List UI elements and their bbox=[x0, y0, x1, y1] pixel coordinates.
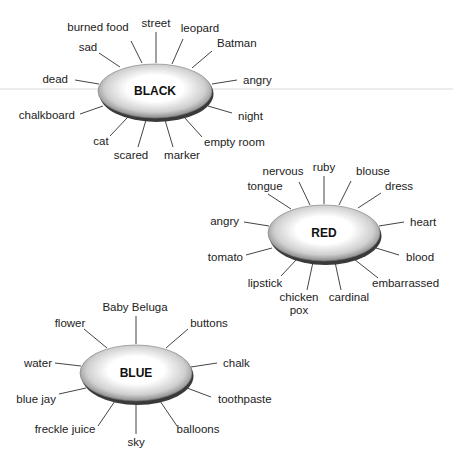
spoke-line bbox=[339, 181, 351, 205]
spoke-line bbox=[335, 262, 341, 290]
spoke-line bbox=[131, 41, 142, 63]
association-label: toothpaste bbox=[218, 393, 272, 405]
spoke-line bbox=[55, 363, 81, 366]
association-label: flower bbox=[55, 317, 86, 329]
association-label: scared bbox=[114, 149, 149, 161]
spoke-line bbox=[358, 193, 381, 208]
spoke-line bbox=[299, 182, 310, 205]
spoke-line bbox=[307, 262, 313, 290]
association-label: dead bbox=[42, 73, 68, 85]
word-web-diagram: BLACKburned foodstreetleopardsadBatmande… bbox=[0, 0, 453, 469]
spoke-line bbox=[376, 248, 399, 255]
diagram-canvas: BLACKburned foodstreetleopardsadBatmande… bbox=[0, 0, 453, 469]
association-label: water bbox=[23, 357, 52, 369]
spoke-line bbox=[184, 117, 202, 137]
association-label: dress bbox=[385, 180, 413, 192]
association-label: cat bbox=[93, 135, 109, 147]
spoke-line bbox=[166, 329, 188, 348]
association-label: angry bbox=[210, 215, 239, 227]
association-label: chicken bbox=[280, 291, 319, 303]
association-label: freckle juice bbox=[35, 423, 96, 435]
cluster-red: REDrubynervousblousetonguedressangryhear… bbox=[208, 161, 439, 316]
association-label: sky bbox=[127, 436, 145, 448]
association-label: night bbox=[238, 110, 264, 122]
spoke-line bbox=[59, 388, 86, 394]
association-label: street bbox=[142, 17, 172, 29]
spoke-line bbox=[268, 194, 291, 209]
center-label-black: BLACK bbox=[134, 84, 176, 98]
association-label: embarrassed bbox=[372, 277, 439, 289]
association-label: sad bbox=[79, 41, 98, 53]
cluster-blue: BLUEBaby Belugaflowerbuttonswaterchalkbl… bbox=[16, 301, 271, 448]
spoke-line bbox=[246, 248, 272, 255]
center-label-blue: BLUE bbox=[120, 366, 153, 380]
association-label: pox bbox=[290, 304, 309, 316]
association-label: Baby Beluga bbox=[102, 301, 168, 313]
spoke-line bbox=[99, 53, 120, 67]
spoke-line bbox=[110, 117, 128, 136]
center-label-red: RED bbox=[311, 226, 337, 240]
association-label: empty room bbox=[204, 136, 265, 148]
spoke-line bbox=[244, 222, 269, 226]
spoke-line bbox=[212, 80, 237, 84]
spoke-line bbox=[191, 363, 217, 367]
association-label: angry bbox=[243, 74, 272, 86]
association-label: blouse bbox=[356, 165, 390, 177]
spoke-line bbox=[192, 51, 212, 68]
association-label: ruby bbox=[313, 161, 336, 173]
association-label: blood bbox=[406, 251, 434, 263]
spoke-line bbox=[160, 401, 177, 426]
spoke-line bbox=[208, 106, 232, 113]
spoke-line bbox=[165, 120, 173, 147]
spoke-line bbox=[84, 329, 107, 348]
spoke-line bbox=[379, 222, 404, 226]
spoke-line bbox=[354, 259, 378, 278]
association-label: nervous bbox=[263, 165, 304, 177]
spoke-line bbox=[75, 80, 99, 84]
association-label: burned food bbox=[67, 21, 128, 33]
association-label: blue jay bbox=[16, 393, 56, 405]
association-label: balloons bbox=[177, 423, 220, 435]
association-label: leopard bbox=[181, 22, 219, 34]
spoke-line bbox=[98, 401, 115, 426]
association-label: tongue bbox=[247, 180, 282, 192]
association-label: cardinal bbox=[329, 291, 369, 303]
association-label: chalk bbox=[223, 357, 250, 369]
spoke-line bbox=[80, 106, 103, 114]
spoke-line bbox=[138, 120, 146, 147]
association-label: heart bbox=[410, 216, 437, 228]
spoke-line bbox=[172, 39, 183, 64]
association-label: tomato bbox=[208, 251, 243, 263]
association-label: marker bbox=[164, 149, 200, 161]
association-label: buttons bbox=[190, 317, 228, 329]
spoke-line bbox=[187, 388, 211, 397]
association-label: chalkboard bbox=[19, 109, 75, 121]
spoke-line bbox=[281, 259, 297, 276]
association-label: Batman bbox=[217, 37, 257, 49]
association-label: lipstick bbox=[248, 277, 283, 289]
